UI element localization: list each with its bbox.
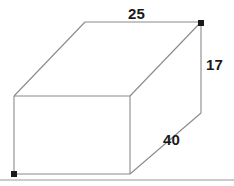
right-face-edges (130, 22, 201, 174)
rectangular-prism-drawing (0, 0, 234, 186)
depth-dimension-label: 40 (163, 132, 180, 147)
height-dimension-label: 17 (206, 57, 223, 72)
front-face-edges (14, 96, 130, 174)
top-right-diagonal-edge (130, 22, 201, 96)
front-bottom-left-vertex-dot (11, 171, 17, 177)
top-face-edges (14, 22, 201, 96)
back-top-right-vertex-dot (198, 20, 204, 26)
top-left-diagonal-edge (14, 22, 85, 96)
width-dimension-label: 25 (128, 6, 145, 21)
figure-canvas: 25 17 40 (0, 0, 234, 186)
